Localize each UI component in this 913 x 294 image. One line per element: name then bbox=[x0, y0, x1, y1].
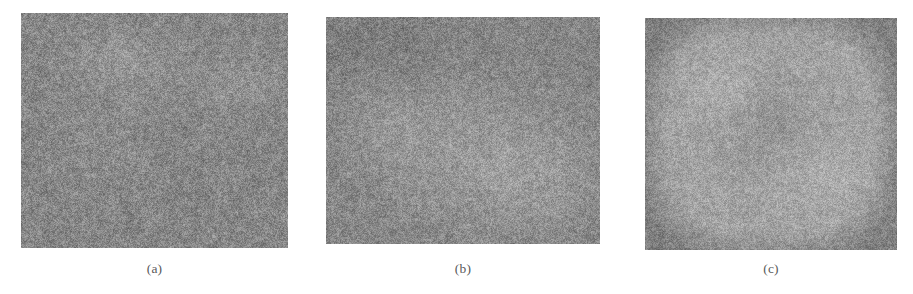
figure-root: (a) (b) (c) bbox=[0, 0, 913, 294]
panel-image-b bbox=[326, 17, 600, 244]
noise-canvas-c bbox=[645, 18, 897, 250]
panel-image-c bbox=[645, 18, 897, 250]
noise-canvas-a bbox=[21, 13, 288, 248]
noise-canvas-b bbox=[326, 17, 600, 244]
panel-image-a bbox=[21, 13, 288, 248]
panel-caption-b: (b) bbox=[326, 261, 600, 277]
panel-caption-c: (c) bbox=[645, 261, 897, 277]
panel-caption-a: (a) bbox=[21, 261, 288, 277]
